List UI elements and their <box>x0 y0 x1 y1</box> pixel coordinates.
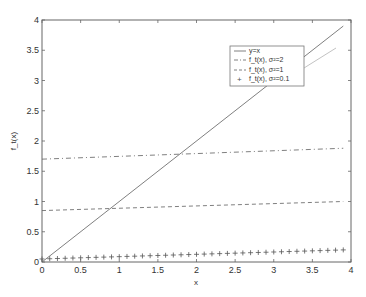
plus-marker <box>55 256 60 261</box>
y-tick-label: 4 <box>34 15 39 25</box>
plus-marker <box>117 254 122 259</box>
plus-marker <box>287 249 292 254</box>
plus-marker <box>155 253 160 258</box>
plus-marker <box>140 253 145 258</box>
plus-marker <box>271 249 276 254</box>
plus-marker <box>186 252 191 257</box>
legend-entry-3: f_t(x), σ²=0.1 <box>249 75 289 83</box>
y-tick-label: 2 <box>34 136 39 146</box>
x-tick-label: 0 <box>39 265 44 275</box>
plus-marker <box>310 248 315 253</box>
plus-marker <box>194 252 199 257</box>
plus-marker <box>333 248 338 253</box>
plus-marker <box>171 253 176 258</box>
y-tick-label: 0.5 <box>26 227 39 237</box>
y-tick-label: 0 <box>34 257 39 267</box>
plus-marker <box>179 252 184 257</box>
legend-swatch-plus: + <box>237 75 242 84</box>
legend-pointer <box>304 48 336 68</box>
plus-marker <box>217 251 222 256</box>
plus-marker <box>264 250 269 255</box>
x-tick-label: 2 <box>194 265 199 275</box>
x-tick-label: 2.5 <box>229 265 242 275</box>
x-tick-label: 1 <box>117 265 122 275</box>
plus-marker <box>341 247 346 252</box>
plus-marker <box>163 253 168 258</box>
plus-marker <box>132 254 137 259</box>
series-line-2 <box>42 202 343 211</box>
plus-marker <box>209 251 214 256</box>
x-tick-label: 3.5 <box>306 265 319 275</box>
plus-marker <box>240 250 245 255</box>
plus-marker <box>248 250 253 255</box>
plus-marker <box>109 254 114 259</box>
plus-marker <box>148 253 153 258</box>
y-tick-label: 2.5 <box>26 106 39 116</box>
plus-marker <box>101 255 106 260</box>
legend-entry-2: f_t(x), σ²=1 <box>249 66 284 74</box>
y-tick-label: 3.5 <box>26 45 39 55</box>
plus-marker <box>202 252 207 257</box>
y-tick-label: 3 <box>34 76 39 86</box>
x-tick-label: 1.5 <box>152 265 165 275</box>
plus-marker <box>294 249 299 254</box>
plus-marker <box>124 254 129 259</box>
y-tick-label: 1.5 <box>26 166 39 176</box>
y-tick-label: 1 <box>34 197 39 207</box>
y-axis-label: f_t(x) <box>9 132 18 151</box>
plus-marker <box>325 248 330 253</box>
plus-marker <box>318 248 323 253</box>
series-line-1 <box>42 148 343 159</box>
x-tick-label: 4 <box>348 265 353 275</box>
plus-marker <box>94 255 99 260</box>
plus-marker <box>86 255 91 260</box>
plus-marker <box>233 251 238 256</box>
plus-marker <box>279 249 284 254</box>
x-axis-label: x <box>194 278 198 287</box>
chart: 00.511.522.533.5400.511.522.533.54 x f_t… <box>0 0 366 297</box>
plus-marker <box>63 256 68 261</box>
legend-entry-0: y=x <box>249 47 261 55</box>
legend: y=x f_t(x), σ²=2 f_t(x), σ²=1 + f_t(x), … <box>230 46 304 86</box>
x-tick-label: 3 <box>271 265 276 275</box>
plus-marker <box>225 251 230 256</box>
plus-marker <box>70 256 75 261</box>
x-tick-label: 0.5 <box>74 265 87 275</box>
plus-marker <box>302 249 307 254</box>
legend-entry-1: f_t(x), σ²=2 <box>249 56 284 64</box>
plus-marker <box>256 250 261 255</box>
